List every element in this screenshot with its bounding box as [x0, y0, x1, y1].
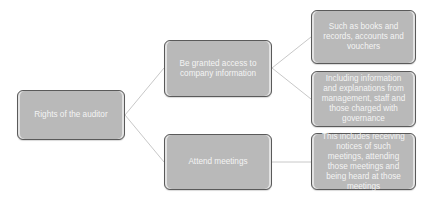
node-books-label: Such as books and records, accounts and … [318, 22, 409, 52]
connector-access-to-books [272, 37, 311, 68]
connector-root-to-meetings [125, 115, 164, 162]
node-information-explanations: Including information and explanations f… [311, 71, 416, 127]
node-access-to-information: Be granted access to company information [164, 40, 272, 97]
root-node-rights-of-auditor: Rights of the auditor [17, 90, 125, 140]
node-notices-label: This includes receiving notices of such … [318, 132, 409, 192]
node-meetings-label: Attend meetings [188, 157, 247, 167]
node-access-label: Be granted access to company information [171, 59, 265, 79]
node-meeting-notices: This includes receiving notices of such … [311, 133, 416, 190]
root-node-label: Rights of the auditor [34, 110, 107, 120]
node-books-records: Such as books and records, accounts and … [311, 10, 416, 64]
node-attend-meetings: Attend meetings [164, 134, 272, 190]
connector-root-to-access [125, 68, 164, 115]
node-information-label: Including information and explanations f… [318, 74, 409, 124]
connector-access-to-information [272, 68, 311, 99]
